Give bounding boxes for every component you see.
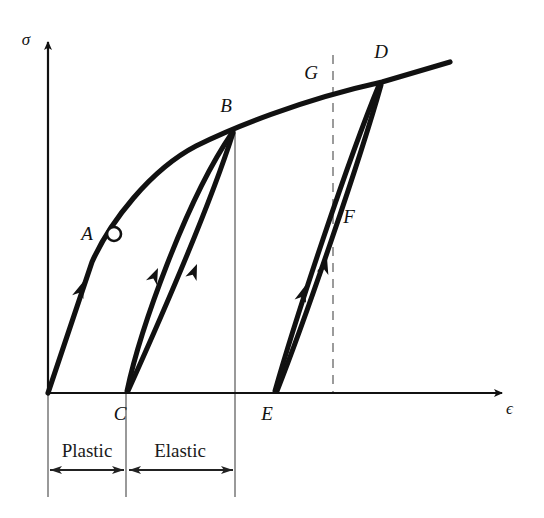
guide-lines xyxy=(48,55,333,497)
point-label-d: D xyxy=(373,41,388,62)
region-label-plastic: Plastic xyxy=(62,440,113,461)
arrow-unload-b-to-c xyxy=(185,262,202,281)
point-label-a: A xyxy=(79,223,93,244)
point-label-b: B xyxy=(220,95,232,116)
stress-strain-curves xyxy=(48,62,450,393)
curve-virgin-loading xyxy=(48,62,450,393)
y-axis-label-sigma: σ xyxy=(22,30,31,49)
point-label-f: F xyxy=(342,206,355,227)
curve-direction-arrows xyxy=(72,256,333,303)
region-label-elastic: Elastic xyxy=(154,440,206,461)
curve-unload-b-to-c xyxy=(128,133,233,391)
point-label-g: G xyxy=(304,62,318,83)
curve-unload-d-to-e xyxy=(277,85,381,391)
point-label-c: C xyxy=(114,403,127,424)
stress-strain-figure: σ ϵ A B C D E F G Plastic Elastic xyxy=(0,0,544,518)
x-axis-label-epsilon: ϵ xyxy=(506,399,514,418)
point-marker-a xyxy=(107,227,121,241)
curve-reload-e-to-d xyxy=(275,85,379,391)
point-label-e: E xyxy=(260,403,273,424)
stress-strain-diagram: σ ϵ A B C D E F G Plastic Elastic xyxy=(0,0,544,518)
